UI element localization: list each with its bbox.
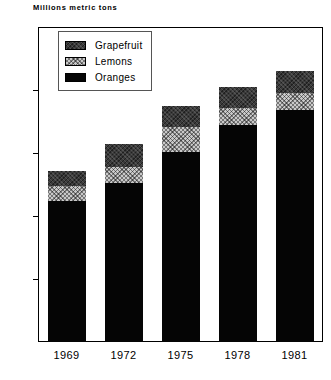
bar-segment-grapefruit <box>219 87 257 108</box>
bar-segment-lemons <box>105 167 143 183</box>
bar-segment-lemons <box>219 108 257 125</box>
bar-segment-oranges <box>276 110 314 342</box>
bar-segment-lemons <box>276 93 314 110</box>
bar-segment-lemons <box>48 186 86 201</box>
legend-item-label: Lemons <box>95 56 132 67</box>
bar-segment-oranges <box>162 152 200 342</box>
legend-item-lemons[interactable]: Lemons <box>65 53 142 69</box>
legend-swatch-grapefruit-icon <box>65 41 86 50</box>
bar-1975 <box>162 106 200 342</box>
legend-item-label: Oranges <box>95 72 135 83</box>
bar-1981 <box>276 71 314 343</box>
bar-segment-grapefruit <box>105 144 143 167</box>
legend-item-label: Grapefruit <box>95 40 142 51</box>
bar-segment-grapefruit <box>162 106 200 126</box>
bar-1972 <box>105 144 143 342</box>
x-axis-tick-label: 1981 <box>265 349 325 361</box>
x-axis-tick-label: 1975 <box>151 349 211 361</box>
bar-segment-oranges <box>105 183 143 342</box>
chart-title: Millions metric tons <box>33 3 117 12</box>
x-axis-tick-label: 1972 <box>94 349 154 361</box>
chart-root: Millions metric tons 01020304050 1969197… <box>0 0 331 380</box>
chart-legend: GrapefruitLemonsOranges <box>58 31 152 91</box>
bar-segment-oranges <box>48 201 86 342</box>
bar-segment-lemons <box>162 127 200 153</box>
legend-item-grapefruit[interactable]: Grapefruit <box>65 37 142 53</box>
bar-segment-oranges <box>219 125 257 342</box>
legend-item-oranges[interactable]: Oranges <box>65 69 142 85</box>
bar-1969 <box>48 171 86 342</box>
bar-1978 <box>219 87 257 342</box>
bar-segment-grapefruit <box>48 171 86 186</box>
x-axis-tick-label: 1969 <box>37 349 97 361</box>
x-axis-tick-label: 1978 <box>208 349 268 361</box>
legend-swatch-oranges-icon <box>65 73 86 82</box>
bar-segment-grapefruit <box>276 71 314 94</box>
legend-swatch-lemons-icon <box>65 57 86 66</box>
